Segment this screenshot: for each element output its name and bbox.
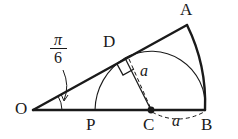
point-label-C: C bbox=[143, 116, 154, 133]
geometry-figure: O A B C D P a a π 6 bbox=[0, 0, 238, 139]
angle-arc-O bbox=[58, 96, 62, 110]
point-label-O: O bbox=[15, 100, 27, 117]
point-label-A: A bbox=[180, 1, 192, 18]
angle-numerator: π bbox=[44, 32, 72, 47]
point-label-B: B bbox=[201, 116, 212, 133]
center-dot-C bbox=[148, 107, 155, 114]
point-label-D: D bbox=[103, 33, 115, 50]
angle-denominator: 6 bbox=[44, 50, 72, 66]
arc-PD bbox=[95, 58, 125, 110]
point-label-P: P bbox=[86, 116, 95, 133]
angle-pointer-arrow bbox=[63, 70, 67, 100]
circle-arc-DB bbox=[125, 51, 205, 110]
length-label-radius-CD: a bbox=[140, 63, 148, 79]
angle-measure-label: π 6 bbox=[44, 32, 72, 66]
length-label-radius-CB: a bbox=[172, 113, 180, 129]
